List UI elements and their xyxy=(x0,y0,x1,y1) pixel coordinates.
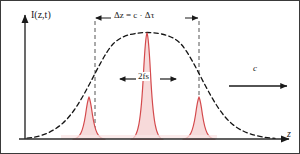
velocity-label: c xyxy=(253,64,257,73)
pulse-width-label: 2fs xyxy=(137,72,150,81)
pulse-peak-3 xyxy=(183,97,215,139)
pulse-peak-2 xyxy=(131,33,163,139)
pulse-train-peaks xyxy=(61,33,217,139)
figure-canvas xyxy=(1,1,300,154)
delta-z-label: Δz = c · Δτ xyxy=(114,11,154,20)
pulse-peak-1 xyxy=(73,97,105,139)
physics-pulse-train-figure: I(z,t) Δz = c · Δτ 2fs c z xyxy=(0,0,300,154)
y-axis-label: I(z,t) xyxy=(31,10,51,20)
x-axis-label: z xyxy=(287,129,291,139)
